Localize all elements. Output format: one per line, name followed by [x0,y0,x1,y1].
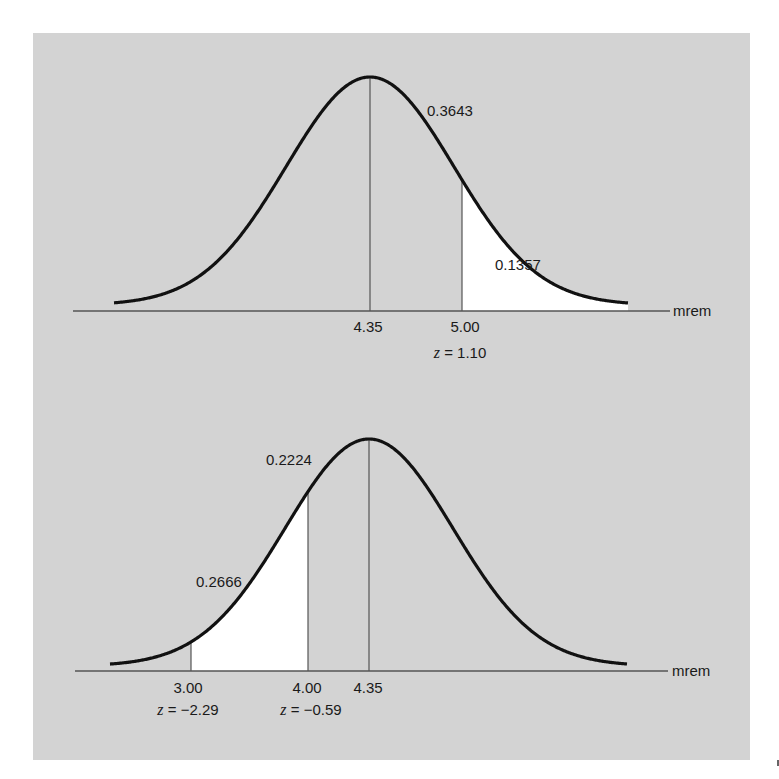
bottom-z-score-label-cut: z = −0.59 [280,702,341,718]
bottom-area-label-shaded: 0.2666 [196,574,242,589]
top-normal-curve-chart [73,77,670,311]
top-tick-label-cut: 5.00 [450,319,479,334]
bottom-axis-unit-label: mrem [672,663,710,678]
top-tick-label-mean: 4.35 [353,319,382,334]
bottom-z-score-label-low: z = −2.29 [157,702,218,718]
normal-distribution-plots [0,0,779,779]
bottom-normal-curve-chart [75,439,668,671]
shaded-area [462,180,628,311]
bottom-tick-label-cut: 4.00 [292,680,321,695]
top-area-label-tail: 0.1357 [495,257,541,272]
bottom-area-label-center: 0.2224 [266,452,312,467]
top-area-label-center: 0.3643 [427,103,473,118]
top-axis-unit-label: mrem [673,303,711,318]
normal-curve [114,77,628,303]
top-z-score-label: z = 1.10 [434,345,487,361]
bottom-tick-label-mean: 4.35 [353,680,382,695]
bottom-tick-label-low: 3.00 [173,680,202,695]
